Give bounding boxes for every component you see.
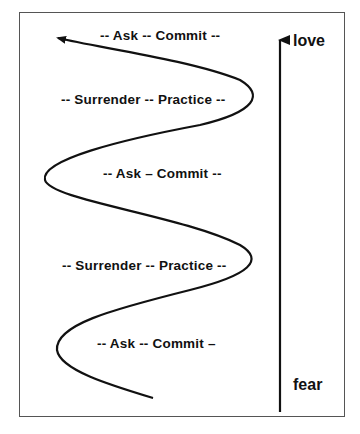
label-ask-commit-bottom: -- Ask -- Commit – [97, 336, 216, 351]
label-surrender-practice-upper: -- Surrender -- Practice -- [61, 92, 225, 107]
axis-label-love: love [293, 32, 325, 50]
label-ask-commit-top: -- Ask -- Commit -- [100, 28, 220, 43]
spiral-curve [0, 0, 360, 434]
label-ask-commit-middle: -- Ask – Commit -- [103, 166, 222, 181]
axis-label-fear: fear [293, 376, 322, 394]
label-surrender-practice-lower: -- Surrender -- Practice -- [62, 258, 226, 273]
